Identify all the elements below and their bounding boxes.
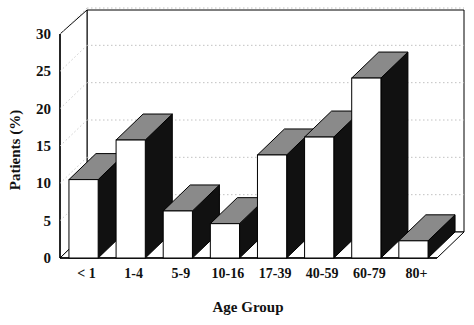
x-tick-label: 5-9	[171, 266, 190, 281]
bar	[352, 52, 408, 258]
bar-front-face	[69, 180, 98, 258]
bar-front-face	[210, 224, 239, 258]
x-tick-label: 40-59	[306, 266, 339, 281]
bar-front-face	[163, 211, 192, 258]
y-tick-label: 20	[36, 101, 51, 117]
x-tick-label: 10-16	[212, 266, 245, 281]
bar-chart-figure: 051015202530 < 11-45-910-1617-3940-5960-…	[0, 0, 474, 325]
y-tick-label: 25	[36, 63, 51, 79]
chart-canvas: 051015202530 < 11-45-910-1617-3940-5960-…	[0, 0, 474, 325]
y-tick-label: 10	[36, 175, 51, 191]
y-tick-label: 15	[36, 138, 51, 154]
x-tick-label: 1-4	[124, 266, 143, 281]
x-tick-label: 17-39	[259, 266, 292, 281]
x-axis-title: Age Group	[213, 299, 284, 315]
bar-side-face	[381, 52, 408, 258]
y-tick-label: 30	[36, 26, 51, 42]
x-tick-label: 80+	[405, 266, 427, 281]
bar-front-face	[399, 241, 428, 258]
y-tick-label: 5	[44, 213, 52, 229]
x-tick-label: 60-79	[353, 266, 386, 281]
bar-front-face	[305, 137, 334, 258]
bar-front-face	[257, 155, 286, 258]
bar-front-face	[352, 78, 381, 258]
y-tick-label: 0	[44, 250, 52, 266]
x-tick-label: < 1	[77, 266, 95, 281]
bar-front-face	[116, 140, 145, 258]
y-axis-title: Patients (%)	[7, 110, 24, 190]
